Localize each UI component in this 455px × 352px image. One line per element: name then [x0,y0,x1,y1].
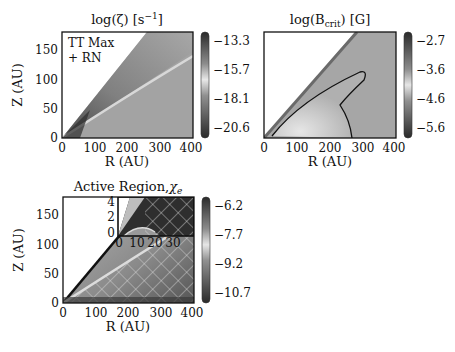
x-axis-label: R (AU) [308,154,352,169]
svg-text:200: 200 [117,306,140,320]
svg-text:100: 100 [84,141,107,155]
svg-text:2: 2 [107,210,115,224]
svg-text:30: 30 [165,236,180,250]
colorbar [404,32,412,138]
svg-text:150: 150 [35,43,58,57]
svg-text:0: 0 [260,141,268,155]
y-axis-label: Z (AU) [10,63,25,107]
svg-text:0: 0 [59,306,67,320]
x-ticks: 0 100 200 300 400 [58,141,202,155]
colorbar [202,197,210,303]
inset [118,197,194,236]
active-region-panel: Active Region,χe 4 2 0 0 10 20 30 0 100 … [0,175,260,352]
colorbar-ticks: −6.2 −7.7 −9.2 −10.7 [214,199,251,300]
svg-text:−4.6: −4.6 [416,92,445,106]
svg-text:400: 400 [383,141,406,155]
y-axis-label: Z (AU) [11,228,26,272]
svg-text:50: 50 [43,102,58,116]
annotation-line2: + RN [68,51,101,65]
panel-title: log(Bcrit) [G] [290,12,371,29]
svg-text:400: 400 [181,306,204,320]
svg-text:0: 0 [115,236,123,250]
zeta-panel: log(ζ) [s−1] TT Max + RN 0 100 200 300 4… [0,0,260,170]
panel-title: Active Region,χe [73,179,183,196]
svg-text:10: 10 [129,236,144,250]
svg-text:0: 0 [51,296,59,310]
svg-text:−7.7: −7.7 [214,228,243,242]
svg-text:300: 300 [150,306,173,320]
colorbar [201,32,209,138]
svg-text:200: 200 [116,141,139,155]
svg-text:20: 20 [147,236,162,250]
svg-text:0: 0 [50,131,58,145]
svg-text:300: 300 [352,141,375,155]
bcrit-panel: log(Bcrit) [G] 0 100 200 300 400 R (AU) … [230,0,455,170]
svg-text:100: 100 [85,306,108,320]
y-ticks: 0 50 100 150 [35,43,58,145]
svg-text:150: 150 [36,208,59,222]
svg-text:50: 50 [44,267,59,281]
svg-text:100: 100 [35,73,58,87]
svg-text:100: 100 [286,141,309,155]
svg-text:−5.6: −5.6 [416,121,445,135]
svg-text:0: 0 [107,226,115,240]
x-axis-label: R (AU) [106,319,150,334]
svg-text:200: 200 [319,141,342,155]
x-ticks: 0 100 200 300 400 [59,306,203,320]
panel-title: log(ζ) [s−1] [91,11,163,27]
x-axis-label: R (AU) [105,154,149,169]
svg-text:0: 0 [58,141,66,155]
svg-text:100: 100 [36,238,59,252]
svg-text:−10.7: −10.7 [214,286,251,300]
colorbar-ticks: −2.7 −3.6 −4.6 −5.6 [416,34,445,135]
svg-text:−9.2: −9.2 [214,257,243,271]
svg-text:4: 4 [107,195,115,209]
svg-text:400: 400 [180,141,203,155]
svg-text:−3.6: −3.6 [416,63,445,77]
svg-text:300: 300 [149,141,172,155]
x-ticks: 0 100 200 300 400 [260,141,405,155]
y-ticks: 0 50 100 150 [36,208,59,310]
svg-text:−2.7: −2.7 [416,34,445,48]
svg-text:−6.2: −6.2 [214,199,243,213]
annotation-line1: TT Max [68,36,114,50]
